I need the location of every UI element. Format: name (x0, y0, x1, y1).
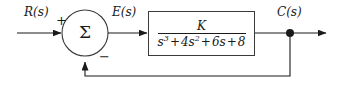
sigma-icon: Σ (76, 24, 94, 41)
numerator-label: K (193, 20, 210, 33)
block-diagram: R(s) + Σ − E(s) K s3+4s2+6s+8 C(s) (0, 0, 337, 88)
denominator-label: s3+4s2+6s+8 (154, 34, 250, 48)
plus-sign-label: + (56, 14, 67, 27)
minus-sign-label: − (99, 50, 110, 63)
output-signal-label: C(s) (277, 6, 302, 18)
transfer-function-block: K s3+4s2+6s+8 (148, 11, 255, 56)
input-signal-label: R(s) (24, 6, 49, 18)
transfer-function-fraction: K s3+4s2+6s+8 (154, 20, 250, 48)
error-signal-label: E(s) (112, 6, 136, 18)
